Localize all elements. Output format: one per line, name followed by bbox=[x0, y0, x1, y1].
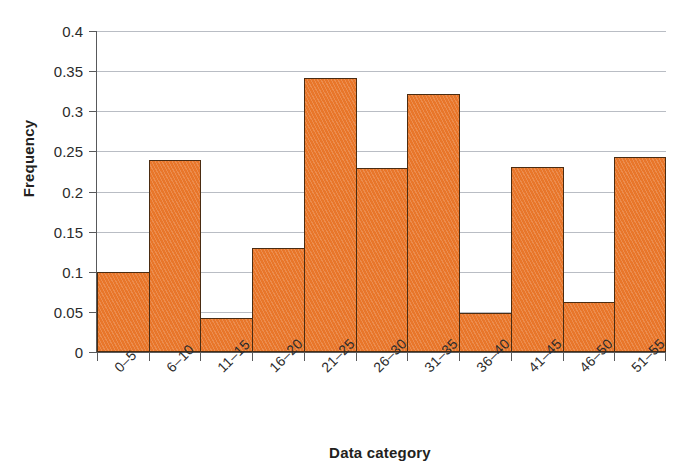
y-tick-label: 0.2 bbox=[23, 183, 83, 200]
y-tick-label: 0 bbox=[23, 344, 83, 361]
bar bbox=[356, 168, 409, 352]
y-tick-mark bbox=[89, 151, 97, 152]
y-tick-mark bbox=[89, 352, 97, 353]
y-tick-label: 0.15 bbox=[23, 223, 83, 240]
x-tick-mark bbox=[97, 352, 98, 361]
x-tick-mark bbox=[563, 352, 564, 361]
x-tick-mark bbox=[252, 352, 253, 361]
chart-title bbox=[0, 0, 684, 6]
y-tick-mark bbox=[89, 71, 97, 72]
gridline-0.25 bbox=[97, 151, 666, 152]
y-tick-label: 0.05 bbox=[23, 303, 83, 320]
x-tick-mark bbox=[459, 352, 460, 361]
y-tick-mark bbox=[89, 192, 97, 193]
x-axis-title: Data category bbox=[90, 444, 670, 461]
gridline-0.4 bbox=[97, 31, 666, 32]
y-tick-label: 0.3 bbox=[23, 103, 83, 120]
y-tick-mark bbox=[89, 31, 97, 32]
x-tick-mark bbox=[614, 352, 615, 361]
bar bbox=[252, 248, 305, 352]
bar bbox=[149, 160, 202, 352]
gridline-0.35 bbox=[97, 71, 666, 72]
bar bbox=[407, 94, 460, 352]
y-tick-mark bbox=[89, 272, 97, 273]
y-tick-label: 0.4 bbox=[23, 23, 83, 40]
histogram-chart: Frequency 00.050.10.150.20.250.30.350.4 … bbox=[0, 0, 684, 474]
gridline-0.3 bbox=[97, 111, 666, 112]
y-tick-mark bbox=[89, 232, 97, 233]
x-tick-mark bbox=[665, 352, 666, 361]
x-tick-mark bbox=[407, 352, 408, 361]
y-tick-mark bbox=[89, 111, 97, 112]
y-tick-label: 0.25 bbox=[23, 143, 83, 160]
bar bbox=[304, 78, 357, 352]
x-tick-mark bbox=[149, 352, 150, 361]
x-tick-mark bbox=[200, 352, 201, 361]
bar bbox=[614, 157, 666, 352]
plot-area bbox=[97, 31, 666, 352]
y-tick-label: 0.35 bbox=[23, 63, 83, 80]
bar bbox=[511, 167, 564, 352]
bar bbox=[97, 272, 150, 352]
x-tick-mark bbox=[356, 352, 357, 361]
y-tick-label: 0.1 bbox=[23, 263, 83, 280]
x-tick-mark bbox=[511, 352, 512, 361]
x-tick-mark bbox=[304, 352, 305, 361]
y-tick-mark bbox=[89, 312, 97, 313]
